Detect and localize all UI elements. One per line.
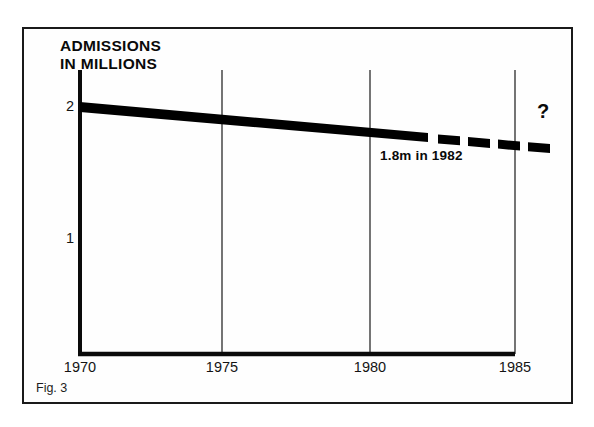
figure-caption: Fig. 3: [36, 381, 67, 395]
x-tick-label-1985: 1985: [499, 359, 531, 375]
y-tick-label-2: 2: [66, 98, 74, 114]
y-axis-title-line1: ADMISSIONS: [60, 37, 161, 54]
chart-canvas: [24, 29, 575, 406]
y-axis-title: ADMISSIONSIN MILLIONS: [60, 37, 161, 74]
x-tick-label-1975: 1975: [206, 359, 238, 375]
plot-area: ADMISSIONSIN MILLIONS 2 1 1970 1975 1980…: [24, 29, 575, 406]
y-axis-title-line2: IN MILLIONS: [60, 55, 157, 72]
trend-line-solid: [80, 102, 428, 142]
figure-frame: ADMISSIONSIN MILLIONS 2 1 1970 1975 1980…: [22, 27, 573, 404]
gridlines: [222, 70, 515, 354]
forecast-question-mark: ?: [537, 101, 549, 121]
y-tick-label-1: 1: [66, 230, 74, 246]
x-tick-label-1980: 1980: [354, 359, 386, 375]
x-tick-label-1970: 1970: [64, 359, 96, 375]
data-point-annotation: 1.8m in 1982: [380, 148, 463, 163]
